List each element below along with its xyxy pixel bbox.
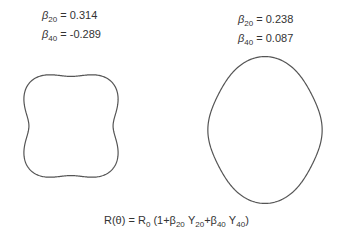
subscript: 40 bbox=[236, 220, 245, 229]
deformed-nucleus-shape-left bbox=[24, 75, 118, 177]
subscript: 20 bbox=[195, 220, 204, 229]
y-symbol: Y bbox=[226, 214, 236, 226]
subscript: 20 bbox=[176, 220, 185, 229]
formula-lhs: R(θ) = R bbox=[104, 214, 146, 226]
subscript: 40 bbox=[217, 220, 226, 229]
deformed-nucleus-shape-right bbox=[208, 57, 322, 204]
shapes-canvas bbox=[0, 0, 337, 238]
y-symbol: Y bbox=[185, 214, 195, 226]
formula-close: ) bbox=[245, 214, 249, 226]
formula-open: (1+ bbox=[150, 214, 169, 226]
radius-formula: R(θ) = R0 (1+β20 Y20+β40 Y40) bbox=[104, 214, 249, 229]
